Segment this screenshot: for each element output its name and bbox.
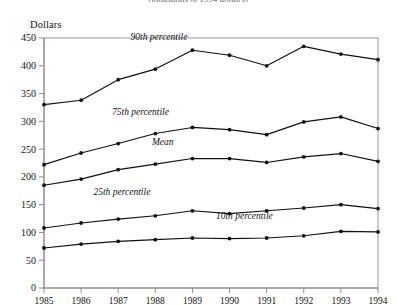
x-tick-label: 1989 [183, 296, 202, 305]
series-marker [265, 161, 269, 165]
series-label: 10th percentile [216, 211, 273, 221]
series-line [44, 154, 378, 186]
series-label: 25th percentile [93, 187, 150, 197]
series-marker [339, 152, 343, 156]
series-marker [79, 242, 83, 246]
series-marker [376, 230, 380, 234]
series-label: 90th percentile [131, 32, 188, 42]
x-axis-ticks: 1985198619871988198919901991199219931994 [35, 288, 388, 305]
y-tick-label: 350 [21, 88, 36, 99]
series-marker [376, 207, 380, 211]
x-tick-label: 1987 [109, 296, 128, 305]
x-tick-label: 1993 [331, 296, 350, 305]
data-series-group [42, 44, 380, 249]
series-marker [153, 162, 157, 166]
y-tick-label: 300 [21, 116, 36, 127]
chart-figure: (thousands of 1994 dollars) Dollars 0501… [0, 0, 397, 305]
series-marker [42, 183, 46, 187]
series-marker [191, 48, 195, 52]
plot-border [44, 38, 378, 288]
series-marker [339, 52, 343, 56]
series-marker [302, 120, 306, 124]
x-tick-label: 1991 [257, 296, 276, 305]
series-marker [376, 127, 380, 131]
series-marker [228, 128, 232, 132]
series-label: Mean [151, 137, 174, 147]
series-marker [79, 151, 83, 155]
series-line [44, 231, 378, 248]
series-marker [228, 237, 232, 241]
plot-frame-group [44, 38, 378, 288]
y-tick-label: 0 [31, 282, 36, 293]
series-line [44, 46, 378, 104]
series-marker [42, 163, 46, 167]
y-tick-label: 200 [21, 171, 36, 182]
series-marker [339, 203, 343, 207]
series-marker [116, 78, 120, 82]
y-tick-label: 150 [21, 199, 36, 210]
series-marker [116, 217, 120, 221]
y-tick-label: 400 [21, 60, 36, 71]
y-tick-label: 50 [26, 255, 36, 266]
series-marker [42, 246, 46, 250]
x-tick-label: 1992 [294, 296, 313, 305]
series-marker [42, 226, 46, 230]
x-tick-label: 1988 [146, 296, 165, 305]
series-marker [339, 115, 343, 119]
series-marker [79, 98, 83, 102]
x-tick-label: 1986 [72, 296, 91, 305]
series-marker [153, 67, 157, 71]
series-marker [191, 157, 195, 161]
x-tick-label: 1990 [220, 296, 239, 305]
series-marker [42, 103, 46, 107]
y-tick-label: 250 [21, 144, 36, 155]
series-marker [116, 142, 120, 146]
series-marker [339, 229, 343, 233]
series-marker [191, 236, 195, 240]
series-marker [228, 53, 232, 57]
series-marker [79, 177, 83, 181]
x-tick-label: 1985 [35, 296, 54, 305]
series-marker [116, 168, 120, 172]
series-marker [79, 221, 83, 225]
series-marker [376, 58, 380, 62]
series-marker [116, 239, 120, 243]
series-marker [265, 236, 269, 240]
series-marker [265, 133, 269, 137]
x-tick-label: 1994 [369, 296, 388, 305]
y-axis-ticks: 050100150200250300350400450 [21, 32, 44, 293]
series-marker [191, 209, 195, 213]
series-marker [376, 159, 380, 163]
y-tick-label: 100 [21, 227, 36, 238]
series-marker [302, 155, 306, 159]
series-marker [191, 126, 195, 130]
series-line [44, 117, 378, 165]
series-marker [302, 234, 306, 238]
series-line [44, 205, 378, 228]
series-marker [153, 214, 157, 218]
line-chart-plot: 050100150200250300350400450 198519861987… [0, 0, 397, 305]
series-marker [153, 238, 157, 242]
series-marker [228, 157, 232, 161]
series-marker [153, 132, 157, 136]
series-label: 75th percentile [112, 107, 169, 117]
series-marker [265, 64, 269, 68]
series-marker [302, 44, 306, 48]
y-tick-label: 450 [21, 32, 36, 43]
series-marker [302, 206, 306, 210]
